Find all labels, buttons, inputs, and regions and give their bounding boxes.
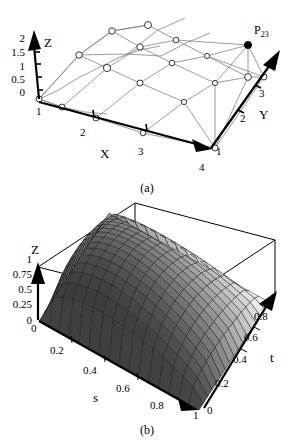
- control-point: [173, 37, 179, 43]
- panel-a-z-tick-1_5: 1.5: [11, 46, 25, 58]
- panel-b-t-tick-0_6: 0.6: [244, 331, 258, 343]
- panel-b-z-axis-label: Z: [31, 242, 39, 257]
- control-point: [103, 64, 110, 71]
- panel-b-s-tick-0_6: 0.6: [116, 382, 130, 394]
- panel-a-x-tick-4: 4: [199, 161, 205, 173]
- panel-b-z-axis: 0 0.25 0.5 0.75 1 Z: [13, 242, 45, 326]
- control-point: [76, 52, 82, 58]
- control-point: [145, 22, 152, 29]
- control-point: [204, 53, 209, 58]
- panel-a-caption: (a): [140, 181, 153, 195]
- panel-a-z-tick-0_5: 0.5: [11, 73, 25, 85]
- panel-b-caption: (b): [140, 423, 154, 437]
- panel-a-z-tick-2: 2: [20, 32, 26, 44]
- panel-a-y-tick-2: 2: [240, 112, 246, 124]
- panel-b-s-tick-0: 0: [31, 322, 37, 334]
- panel-b-t-tick-0: 0: [207, 404, 213, 416]
- marked-control-point-p23: [244, 41, 251, 48]
- panel-b-s-tick-1: 1: [193, 409, 199, 421]
- panel-b-t-tick-0_2: 0.2: [215, 377, 229, 389]
- panel-a-y-tick-3: 3: [259, 87, 265, 99]
- panel-a: P23 0 0.5 1 1.5 2 Z: [11, 18, 280, 195]
- panel-b-t-tick-0_8: 0.8: [254, 310, 268, 322]
- figure-container: P23 0 0.5 1 1.5 2 Z: [0, 0, 295, 441]
- p23-label: P23: [254, 23, 269, 39]
- panel-b-s-tick-0_8: 0.8: [150, 399, 164, 411]
- control-point: [181, 99, 186, 104]
- panel-a-z-tick-1: 1: [20, 60, 26, 72]
- panel-b-t-tick-1: 1: [270, 291, 276, 303]
- panel-b-s-tick-0_2: 0.2: [50, 344, 64, 356]
- panel-b-s-tick-0_4: 0.4: [83, 364, 97, 376]
- control-point: [137, 80, 143, 86]
- panel-a-x-axis-label: X: [100, 146, 110, 161]
- panel-a-x-tick-3: 3: [138, 145, 144, 157]
- panel-b-z-axis-arrowhead: [31, 262, 45, 284]
- control-point: [212, 80, 217, 85]
- panel-a-x-tick-1: 1: [36, 105, 42, 117]
- panel-a-z-axis: 0 0.5 1 1.5 2 Z: [11, 30, 52, 99]
- control-point: [109, 28, 115, 34]
- surface-mesh: [39, 213, 269, 410]
- panel-a-y-axis-label: Y: [259, 107, 269, 122]
- control-point: [137, 44, 143, 50]
- panel-b-z-tick-0_75: 0.75: [13, 268, 33, 280]
- panel-a-x-axis: 1 2 3 4 X: [36, 102, 213, 173]
- panel-b-t-axis-label: t: [270, 350, 274, 365]
- panel-a-x-tick-2: 2: [80, 126, 86, 138]
- control-point: [169, 60, 175, 66]
- control-net-lines: [39, 18, 264, 148]
- panel-a-z-tick-0: 0: [20, 86, 26, 98]
- control-point: [245, 74, 252, 81]
- panel-b-t-tick-0_4: 0.4: [233, 353, 247, 365]
- panel-a-z-axis-label: Z: [44, 35, 52, 50]
- panel-a-y-tick-4: 4: [272, 54, 278, 66]
- panel-b: 0 0.25 0.5 0.75 1 Z 0 0.2 0.4 0.6 0.8 1: [13, 203, 277, 437]
- panel-a-y-tick-1: 1: [216, 145, 222, 157]
- panel-b-z-tick-0_25: 0.25: [13, 298, 33, 310]
- z-axis-arrowhead: [28, 30, 41, 51]
- panel-b-z-tick-0_5: 0.5: [18, 283, 32, 295]
- panel-b-s-axis-label: s: [93, 390, 98, 405]
